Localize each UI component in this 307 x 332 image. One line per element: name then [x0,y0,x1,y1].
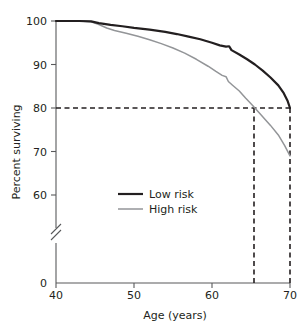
y-tick-label-100: 100 [26,15,47,28]
x-tick-label-60: 60 [205,289,219,302]
data-series-group [56,21,290,156]
series-line-high-risk [56,21,290,156]
survival-curve-figure: 100 90 80 70 60 0 40 50 60 70 Age (years… [0,0,307,332]
y-axis-title: Percent surviving [10,104,23,199]
x-tick-label-40: 40 [49,289,63,302]
x-tick-marks [56,283,290,288]
x-axis-title: Age (years) [143,309,207,322]
legend-label-high-risk: High risk [149,203,198,216]
y-axis-break-slash-lower [51,230,61,240]
y-tick-label-70: 70 [33,146,47,159]
chart-canvas: 100 90 80 70 60 0 40 50 60 70 Age (years… [0,0,307,332]
x-tick-label-50: 50 [127,289,141,302]
y-tick-label-90: 90 [33,59,47,72]
x-tick-label-70: 70 [283,289,297,302]
series-line-low-risk [56,21,290,108]
y-tick-label-80: 80 [33,102,47,115]
y-tick-label-60: 60 [33,189,47,202]
y-tick-label-0: 0 [40,277,47,290]
legend-label-low-risk: Low risk [149,188,194,201]
chart-legend: Low risk High risk [118,188,198,216]
y-tick-marks [51,21,56,195]
